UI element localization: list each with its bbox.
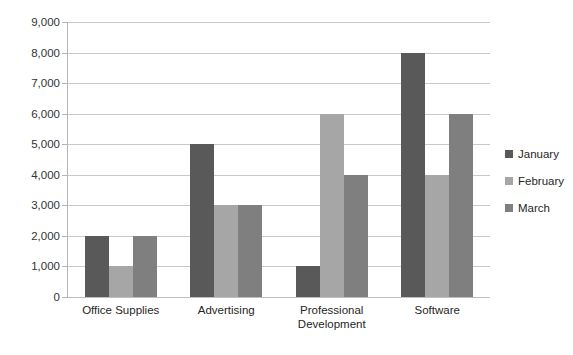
legend-swatch-icon — [505, 177, 513, 185]
y-axis-tick-label: 2,000 — [4, 230, 60, 242]
x-axis-category-label: Software — [385, 303, 491, 317]
bar — [109, 266, 133, 297]
y-axis-tick-label: 7,000 — [4, 77, 60, 89]
bar — [214, 205, 238, 297]
bar — [449, 114, 473, 297]
legend-item-label: February — [518, 175, 564, 187]
bar — [344, 175, 368, 297]
x-axis-category-label: Professional Development — [279, 303, 385, 331]
bar — [401, 53, 425, 297]
bar — [296, 266, 320, 297]
bar — [238, 205, 262, 297]
legend: JanuaryFebruaryMarch — [505, 144, 564, 225]
y-axis-tick-label: 6,000 — [4, 108, 60, 120]
bar-group — [68, 22, 174, 297]
y-axis-tick-label: 1,000 — [4, 260, 60, 272]
bar-chart: 01,0002,0003,0004,0005,0006,0007,0008,00… — [0, 0, 573, 355]
legend-swatch-icon — [505, 150, 513, 158]
legend-item: February — [505, 171, 564, 191]
legend-item-label: March — [518, 202, 550, 214]
bar — [190, 144, 214, 297]
bar-group — [385, 22, 491, 297]
x-axis-category-label: Advertising — [174, 303, 280, 317]
x-axis-category-label: Office Supplies — [68, 303, 174, 317]
gridline — [68, 297, 490, 298]
y-axis-tick-label: 8,000 — [4, 47, 60, 59]
legend-item-label: January — [518, 148, 559, 160]
bar — [133, 236, 157, 297]
bar-group — [174, 22, 280, 297]
y-axis-tick-label: 3,000 — [4, 199, 60, 211]
y-axis-tick-label: 0 — [4, 291, 60, 303]
bar-group — [279, 22, 385, 297]
legend-item: January — [505, 144, 564, 164]
bar — [85, 236, 109, 297]
y-axis-tick-label: 5,000 — [4, 138, 60, 150]
bar — [320, 114, 344, 297]
plot-area — [68, 22, 490, 297]
legend-swatch-icon — [505, 204, 513, 212]
legend-item: March — [505, 198, 564, 218]
y-axis-tick-label: 9,000 — [4, 16, 60, 28]
bar — [425, 175, 449, 297]
y-axis-tick-label: 4,000 — [4, 169, 60, 181]
